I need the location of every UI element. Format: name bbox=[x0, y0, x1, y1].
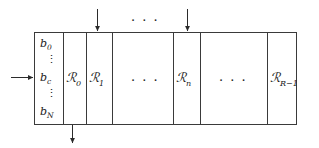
region-ellipsis-first: · · · bbox=[131, 74, 159, 87]
region-label-rlast: ℛR−1 bbox=[270, 71, 298, 88]
buffer-entry-bN: bN bbox=[40, 106, 54, 120]
region-label-r0: ℛ0 bbox=[66, 71, 81, 88]
buffer-vertical-ellipsis-bottom: ⋮ bbox=[46, 88, 57, 99]
top-arrow-ellipsis: · · · bbox=[131, 14, 159, 27]
buffer-entry-bc: bc bbox=[40, 72, 51, 86]
buffer-vertical-ellipsis-top: ⋮ bbox=[46, 54, 57, 65]
buffer-entry-b0: b0 bbox=[40, 38, 52, 52]
buffer-region-diagram: b0 ⋮ bc ⋮ bN ℛ0 ℛ1 · · · ℛn · · · ℛR−1 ·… bbox=[0, 0, 319, 148]
region-ellipsis-second: · · · bbox=[219, 74, 247, 87]
region-label-r1: ℛ1 bbox=[89, 71, 104, 88]
region-label-rn: ℛn bbox=[176, 71, 191, 88]
